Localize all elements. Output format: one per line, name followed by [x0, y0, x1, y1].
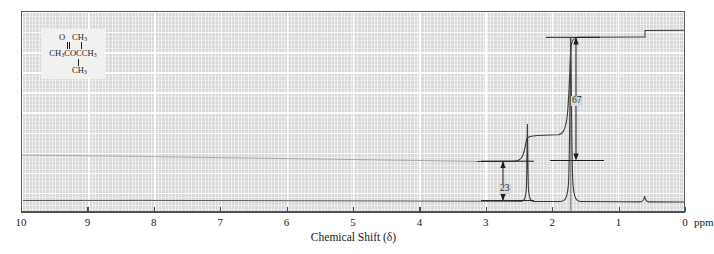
- x-tick-7: [220, 207, 221, 212]
- integral-23-arrowhead-up: [500, 161, 505, 168]
- x-tick-label-8: 8: [151, 216, 157, 228]
- x-tick-label-9: 9: [85, 216, 91, 228]
- x-tick-label-3: 3: [483, 216, 489, 228]
- structure-top-row: O CH3: [59, 33, 87, 42]
- structure-atom-oxygen: O: [59, 33, 65, 42]
- x-tick-label-6: 6: [284, 216, 290, 228]
- x-tick-1: [619, 207, 620, 212]
- x-tick-label-2: 2: [549, 216, 555, 228]
- integration-value-23: 23: [499, 184, 511, 194]
- x-axis-title: Chemical Shift (δ): [0, 231, 707, 243]
- x-tick-0: [685, 207, 686, 212]
- structure-group-ch3-bottom: CH3: [72, 66, 87, 75]
- x-tick-label-5: 5: [350, 216, 356, 228]
- x-tick-2: [552, 207, 553, 212]
- peak-tms: [622, 196, 685, 202]
- x-tick-label-1: 1: [616, 216, 622, 228]
- spectrum-baseline: [23, 200, 520, 201]
- x-tick-label-0: 0: [682, 216, 688, 228]
- x-tick-label-10: 10: [16, 216, 27, 228]
- x-tick-3: [486, 207, 487, 212]
- x-tick-9: [87, 207, 88, 212]
- integral-67-arrowhead-down: [573, 153, 578, 160]
- x-tick-8: [154, 207, 155, 212]
- spectrum-plot: [22, 12, 685, 212]
- double-bond-icon: [67, 42, 68, 49]
- structure-group-ch3-top: CH3: [72, 33, 87, 42]
- spectrum-chart-area: 67 23 O CH3 CH3COCCH3 CH3: [21, 11, 685, 212]
- x-axis-unit-label: ppm: [694, 216, 714, 228]
- x-tick-6: [287, 207, 288, 212]
- x-axis-line: [21, 212, 685, 213]
- peak-cme2: [560, 38, 622, 202]
- x-tick-4: [419, 207, 420, 212]
- integral-baseline-left: [22, 155, 477, 162]
- structure-main-chain: CH3COCCH3: [49, 49, 96, 58]
- x-tick-10: [21, 207, 22, 212]
- x-tick-5: [353, 207, 354, 212]
- structure-inset: O CH3 CH3COCCH3 CH3: [41, 29, 105, 79]
- integral-23-arrowhead-down: [500, 194, 505, 201]
- x-tick-label-7: 7: [217, 216, 223, 228]
- integration-value-67: 67: [571, 96, 583, 106]
- x-axis: 109876543210 ppm: [21, 212, 685, 213]
- x-tick-label-4: 4: [417, 216, 423, 228]
